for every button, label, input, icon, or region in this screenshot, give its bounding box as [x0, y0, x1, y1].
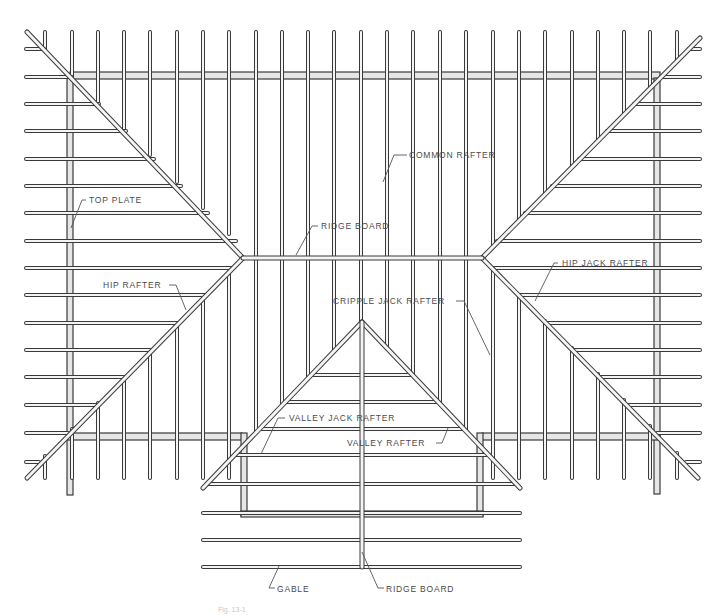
- hip-rafter-leader: [169, 285, 186, 310]
- cripple-jack-rafter-leader: [456, 301, 490, 355]
- ridge-board-gable-leader: [362, 552, 384, 588]
- roof-framing-diagram: COMMON RAFTER TOP PLATE RIDGE BOARD HIP …: [0, 0, 725, 615]
- label-ridge-board-main: RIDGE BOARD: [321, 221, 389, 231]
- label-common-rafter: COMMON RAFTER: [409, 150, 495, 160]
- label-top-plate: TOP PLATE: [89, 195, 142, 205]
- hip-rafter-bottom-right: [482, 258, 698, 478]
- hip-rafter-top-right: [482, 38, 700, 258]
- top-plate-bottom-left: [67, 433, 242, 440]
- hip-rafter-bottom-left: [27, 258, 243, 478]
- label-valley-jack-rafter: VALLEY JACK RAFTER: [289, 413, 395, 423]
- hip-rafter-top-left: [27, 32, 243, 258]
- figure-caption: Fig. 13-1.: [218, 606, 248, 614]
- label-valley-rafter: VALLEY RAFTER: [347, 438, 425, 448]
- label-gable: GABLE: [277, 584, 309, 594]
- label-hip-jack-rafter: HIP JACK RAFTER: [562, 258, 648, 268]
- label-cripple-jack-rafter: CRIPPLE JACK RAFTER: [333, 296, 445, 306]
- label-ridge-board-gable: RIDGE BOARD: [386, 584, 454, 594]
- label-hip-rafter: HIP RAFTER: [103, 280, 161, 290]
